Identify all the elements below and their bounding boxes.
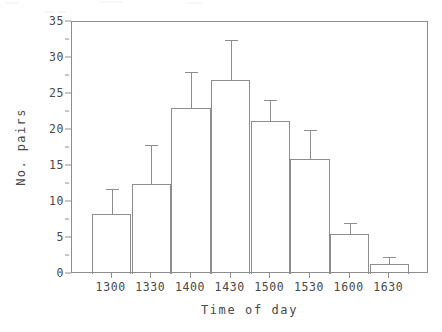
error-bar-stem-1330 [151,145,152,184]
y-tick-mark-minor-7.5 [65,219,69,220]
error-bar-cap-1530 [304,130,317,131]
x-axis-tick-labels: 13001330140014301500153016001630 [71,273,428,299]
error-bar-cap-1630 [383,257,396,258]
scan-artifact [100,1,122,3]
scan-artifact [44,11,54,13]
y-tick-mark-minor-17.5 [65,147,69,148]
x-tick-mark-1630 [388,273,389,278]
x-tick-label-1300: 1300 [96,280,126,294]
error-bar-cap-1300 [106,189,119,190]
x-axis-title: Time of day [71,303,428,317]
error-bar-cap-1400 [185,72,198,73]
y-axis-title: No. pairs [10,21,32,273]
scan-artifact [58,11,66,13]
y-tick-label-10: 10 [49,194,64,208]
y-tick-mark-minor-2.5 [65,255,69,256]
y-tick-label-15: 15 [49,158,64,172]
error-bar-cap-1600 [344,223,357,224]
x-tick-label-1630: 1630 [373,280,403,294]
error-bar-cap-1430 [225,40,238,41]
error-bar-stem-1530 [310,130,311,159]
bar-1430 [211,80,251,274]
plot-area [72,22,427,272]
bar-1600 [330,234,370,274]
bar-1500 [251,121,291,274]
bar-1530 [290,159,330,274]
y-tick-mark-minor-32.5 [65,39,69,40]
chart-page: No. pairs 05101520253035 130013301400143… [0,0,442,332]
x-tick-mark-1500 [269,273,270,278]
x-tick-label-1400: 1400 [175,280,205,294]
x-tick-label-1330: 1330 [135,280,165,294]
x-tick-label-1430: 1430 [215,280,245,294]
y-tick-mark-minor-27.5 [65,75,69,76]
x-tick-label-1600: 1600 [334,280,364,294]
bar-1330 [132,184,172,274]
x-tick-mark-1530 [309,273,310,278]
plot-frame [71,21,428,273]
error-bar-stem-1500 [270,100,271,122]
y-tick-label-25: 25 [49,86,64,100]
y-tick-mark-minor-12.5 [65,183,69,184]
scan-artifact [6,2,18,4]
y-tick-label-20: 20 [49,122,64,136]
y-tick-label-35: 35 [49,14,64,28]
error-bar-cap-1500 [264,100,277,101]
y-tick-label-5: 5 [56,230,64,244]
x-tick-mark-1400 [190,273,191,278]
x-tick-mark-1600 [349,273,350,278]
scan-artifact [186,2,202,4]
x-tick-mark-1300 [111,273,112,278]
x-tick-mark-1430 [230,273,231,278]
error-bar-stem-1300 [112,189,113,214]
y-tick-label-30: 30 [49,50,64,64]
bar-1400 [171,108,211,274]
error-bar-stem-1400 [191,72,192,108]
bar-1300 [92,214,132,274]
error-bar-cap-1330 [145,145,158,146]
x-tick-label-1530: 1530 [294,280,324,294]
x-tick-mark-1330 [150,273,151,278]
error-bar-stem-1430 [231,40,232,80]
y-tick-mark-minor-22.5 [65,111,69,112]
y-axis-tick-labels: 05101520253035 [38,21,64,273]
y-tick-label-0: 0 [56,266,64,280]
error-bar-stem-1600 [350,223,351,234]
x-tick-label-1500: 1500 [254,280,284,294]
